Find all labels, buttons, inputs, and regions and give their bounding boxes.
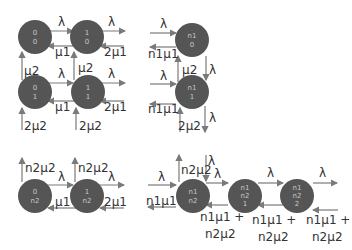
svg-text:2μ1: 2μ1: [104, 100, 127, 114]
panel-bottom-right: n1 n2 n1 n2 1 n1 n2 2 λ n1μ1 n2μ2 λ λ λ …: [146, 154, 350, 244]
state-node-00: [18, 20, 52, 54]
svg-text:1: 1: [190, 93, 194, 101]
panel-bottom-left: 0 n2 1 n2 n2μ2 n2μ2 λ λ μ1 2μ1: [18, 158, 127, 213]
svg-text:1: 1: [86, 84, 90, 92]
svg-text:n2: n2: [31, 197, 40, 205]
svg-text:λ: λ: [158, 170, 165, 184]
svg-text:1: 1: [86, 93, 90, 101]
state-node-11: [71, 75, 105, 109]
panel-top-left: 0 0 1 0 0 1 1 1 λ λ μ1 2μ1 μ2 μ2 λ λ μ1 …: [18, 15, 127, 133]
svg-text:n1: n1: [189, 188, 198, 196]
svg-text:μ1: μ1: [55, 100, 70, 114]
svg-text:n1μ1 +: n1μ1 +: [252, 213, 296, 227]
state-node-n1-n2: [176, 179, 210, 213]
state-diagram: 0 0 1 0 0 1 1 1 λ λ μ1 2μ1 μ2 μ2 λ λ μ1 …: [0, 0, 352, 250]
svg-text:n2μ2: n2μ2: [258, 230, 289, 244]
svg-text:n2: n2: [293, 192, 302, 200]
svg-text:λ: λ: [267, 166, 274, 180]
svg-text:n1: n1: [293, 184, 302, 192]
svg-text:μ1: μ1: [55, 45, 70, 59]
svg-text:2μ2: 2μ2: [24, 119, 47, 133]
svg-text:λ: λ: [108, 170, 115, 184]
svg-text:0: 0: [190, 41, 194, 49]
svg-text:n1μ1: n1μ1: [148, 102, 179, 116]
svg-text:2μ2: 2μ2: [178, 119, 201, 133]
svg-text:n2: n2: [83, 197, 92, 205]
svg-text:n1μ1 +: n1μ1 +: [200, 210, 244, 224]
svg-text:2μ1: 2μ1: [104, 45, 127, 59]
svg-text:1: 1: [243, 200, 247, 208]
state-node-0-n2: [18, 179, 52, 213]
svg-text:n2: n2: [241, 192, 250, 200]
svg-text:μ2: μ2: [182, 63, 197, 77]
svg-text:0: 0: [85, 38, 89, 46]
svg-text:μ2: μ2: [78, 61, 93, 75]
svg-text:2: 2: [295, 200, 299, 208]
svg-text:λ: λ: [58, 15, 65, 29]
svg-text:n2μ2: n2μ2: [181, 163, 212, 177]
svg-text:μ1: μ1: [55, 195, 70, 209]
state-node-10: [70, 20, 104, 54]
svg-text:n2: n2: [189, 197, 198, 205]
svg-text:λ: λ: [108, 15, 115, 29]
panel-top-right: n1 0 n1 1 λ n1μ1 μ2 λ λ n1μ1 2μ2 λ: [148, 17, 216, 133]
state-node-01: [18, 75, 52, 109]
svg-text:μ2: μ2: [24, 64, 39, 78]
svg-text:2μ1: 2μ1: [104, 195, 127, 209]
svg-text:λ: λ: [58, 67, 65, 81]
svg-text:λ: λ: [58, 170, 65, 184]
svg-text:λ: λ: [160, 69, 167, 83]
svg-text:λ: λ: [214, 167, 221, 181]
svg-text:n1μ1: n1μ1: [146, 194, 177, 208]
state-node-n1-1: [175, 75, 209, 109]
svg-text:1: 1: [85, 188, 89, 196]
svg-text:2μ2: 2μ2: [79, 119, 102, 133]
svg-text:n1: n1: [188, 84, 197, 92]
svg-text:λ: λ: [108, 67, 115, 81]
svg-text:n1: n1: [188, 32, 197, 40]
svg-text:1: 1: [33, 93, 37, 101]
svg-text:0: 0: [33, 38, 37, 46]
svg-text:λ: λ: [319, 166, 326, 180]
svg-text:λ: λ: [208, 154, 215, 168]
svg-text:n2μ2: n2μ2: [205, 227, 236, 241]
svg-text:λ: λ: [160, 17, 167, 31]
svg-text:0: 0: [33, 84, 37, 92]
svg-text:λ: λ: [209, 63, 216, 77]
svg-text:1: 1: [85, 29, 89, 37]
svg-text:n1: n1: [241, 184, 250, 192]
svg-text:n1μ1 +: n1μ1 +: [306, 213, 350, 227]
svg-text:n2μ2: n2μ2: [78, 161, 109, 175]
state-node-1-n2: [70, 179, 104, 213]
svg-text:n1μ1: n1μ1: [148, 47, 179, 61]
state-node-n1-0: [175, 23, 209, 57]
svg-text:λ: λ: [209, 111, 216, 125]
svg-text:n2μ2: n2μ2: [312, 230, 343, 244]
svg-text:n2μ2: n2μ2: [25, 161, 56, 175]
svg-text:0: 0: [33, 29, 37, 37]
svg-text:0: 0: [33, 188, 37, 196]
